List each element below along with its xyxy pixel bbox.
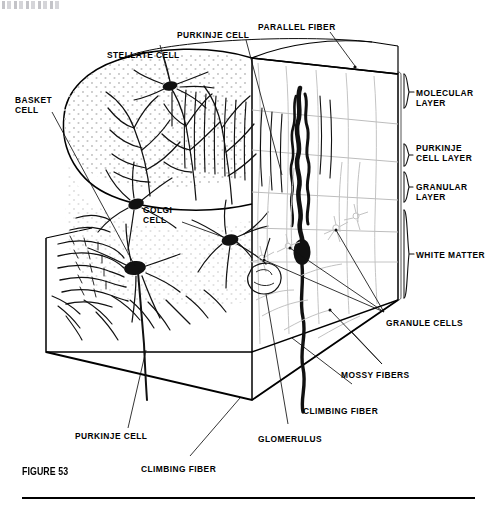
bracket-molecular-layer: [404, 74, 414, 108]
purkinje-cell-front: [291, 88, 311, 412]
bracket-white-matter: [404, 210, 414, 298]
layer-brackets: [398, 72, 414, 300]
label-purkinje-cell-bottom: PURKINJE CELL: [75, 431, 147, 441]
front-right-face: [252, 58, 398, 352]
label-purkinje-cell-layer: PURKINJE CELL LAYER: [416, 143, 472, 163]
label-mossy-fibers: MOSSY FIBERS: [341, 370, 410, 380]
figure-cerebellar-cortex: STELLATE CELL PURKINJE CELL PARALLEL FIB…: [0, 0, 497, 512]
granule-cell-cluster-c: [250, 246, 274, 272]
leader-parallel-fiber: [330, 32, 355, 66]
label-purkinje-cell-top: PURKINJE CELL: [177, 30, 249, 40]
front-face-faint-fibers: [252, 63, 398, 344]
label-climbing-fiber-right: CLIMBING FIBER: [303, 406, 378, 416]
label-basket-cell: BASKET CELL: [15, 95, 52, 115]
label-golgi-cell: GOLGI CELL: [143, 205, 172, 225]
leader-mossy-fibers-b: [352, 332, 382, 364]
figure-number: FIGURE 53: [22, 466, 68, 477]
leader-glomerulus: [266, 294, 288, 424]
parallel-fibers-front: [261, 96, 332, 192]
label-granular-layer: GRANULAR LAYER: [416, 182, 468, 202]
bracket-granular-layer: [404, 172, 413, 202]
label-white-matter: WHITE MATTER: [416, 250, 485, 260]
climbing-fiber-plexus: [297, 88, 303, 244]
bracket-purkinje-cell-layer: [404, 144, 413, 166]
label-granule-cells: GRANULE CELLS: [386, 318, 463, 328]
leader-granule-cells-a: [336, 230, 384, 312]
dot-parallel-fiber: [353, 65, 356, 68]
label-parallel-fiber: PARALLEL FIBER: [258, 22, 336, 32]
label-molecular-layer: MOLECULAR LAYER: [416, 88, 474, 108]
leader-climbing-fiber-bottom: [190, 398, 240, 456]
leader-granule-cells-b: [290, 248, 384, 312]
figure-rule: [22, 497, 475, 499]
label-climbing-fiber-bottom: CLIMBING FIBER: [141, 464, 216, 474]
purkinje-axon-front: [301, 265, 304, 412]
label-stellate-cell: STELLATE CELL: [107, 50, 180, 60]
leader-purkinje-cell-bottom: [128, 350, 146, 428]
top-back-curve: [252, 41, 398, 58]
label-glomerulus: GLOMERULUS: [258, 434, 322, 444]
